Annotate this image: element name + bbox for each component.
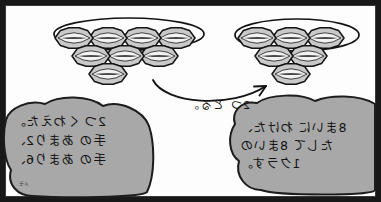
right-bubble-line-1: 2つ くわえた。 (12, 115, 138, 128)
right-bubble-line-3: 手の あまり6、 (12, 153, 138, 166)
left-bubble-line-2: たして 8まいの (239, 139, 363, 152)
text-layer: 2つ とる。 8まいに わけた、 たして 8まいの 1クラす。 2つ くわえた。… (0, 0, 381, 202)
mirrored-drawing-layer: 2つ とる。 8まいに わけた、 たして 8まいの 1クラす。 2つ くわえた。… (0, 0, 381, 202)
illustration-panel: 2つ とる。 8まいに わけた、 たして 8まいの 1クラす。 2つ くわえた。… (0, 0, 381, 202)
left-bubble-line-3: 1クラす。 (239, 157, 363, 170)
right-bubble-text: 2つ くわえた。 手の あまり2、 手の あまり6、 (12, 115, 138, 172)
left-bubble-text: 8まいに わけた、 たして 8まいの 1クラす。 (239, 121, 363, 175)
left-bubble-line-1: 8まいに わけた、 (239, 121, 363, 134)
right-bubble-line-2: 手の あまり2、 (12, 134, 138, 147)
margin-mark: メモ (18, 181, 29, 186)
arrow-label: 2つ とる。 (187, 100, 251, 112)
